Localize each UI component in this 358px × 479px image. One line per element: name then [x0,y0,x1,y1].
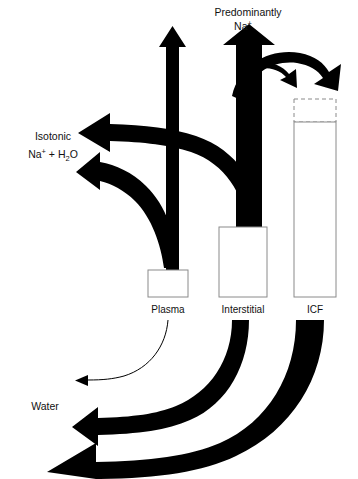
label-isotonic-o: O [70,148,78,160]
label-isotonic-na: Na [28,148,42,160]
label-compartment-interstitial: Interstitial [222,304,265,315]
fluid-compartment-diagram: Predominantly Na+ Isotonic Na+ + H2O Wat… [0,0,358,479]
label-compartment-plasma: Plasma [151,304,185,315]
label-na-base: Na [234,20,248,32]
compartment-icf-dashed-extension [294,99,336,122]
compartment-icf-box[interactable] [294,122,336,297]
compartment-plasma-box[interactable] [148,270,188,297]
label-water: Water [31,400,59,412]
label-isotonic: Isotonic [35,130,71,142]
label-compartment-icf: ICF [307,304,323,315]
label-predominantly: Predominantly [214,6,282,18]
compartment-interstitial-box[interactable] [219,227,267,297]
label-isotonic-plus-h: + H [46,148,66,160]
label-na-superscript: + [248,19,253,28]
